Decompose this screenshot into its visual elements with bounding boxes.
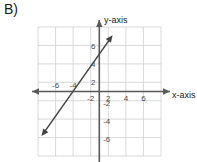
line-arrow-down-icon [42, 129, 49, 136]
y-tick-label: -6 [103, 135, 111, 144]
arrow-right-icon [163, 88, 170, 94]
y-tick-label: -4 [103, 117, 111, 126]
multiple-choice-graph-figure: B) [0, 0, 197, 162]
coordinate-plane-chart: -6 -4 -2 2 4 6 6 4 2 -2 -4 -6 y-axis x-a… [0, 0, 197, 162]
y-axis-title: y-axis [104, 15, 128, 25]
x-tick-label: -4 [70, 81, 78, 90]
x-tick-label: -6 [52, 81, 60, 90]
y-tick-label: 2 [91, 78, 96, 87]
y-tick-labels: 6 4 2 -2 -4 -6 [91, 42, 111, 145]
x-tick-label: 4 [124, 94, 129, 103]
x-axis-title: x-axis [172, 90, 196, 100]
y-tick-label: -2 [103, 99, 111, 108]
line-arrow-up-icon [106, 35, 113, 43]
y-tick-label: 6 [91, 42, 96, 51]
y-tick-label: 4 [91, 60, 96, 69]
x-tick-label: -2 [87, 94, 95, 103]
arrow-up-icon [96, 20, 102, 27]
x-tick-label: 6 [141, 94, 146, 103]
arrow-left-icon [32, 88, 39, 94]
